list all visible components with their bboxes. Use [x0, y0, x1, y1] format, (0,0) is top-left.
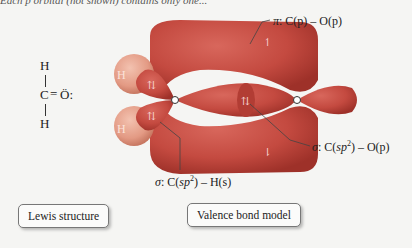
hydrogen-atoms: H H	[114, 54, 154, 146]
oxygen-nucleus	[294, 97, 301, 104]
lewis-structure-caption: Lewis structure	[18, 204, 109, 228]
svg-text:⇂: ⇂	[263, 146, 272, 158]
svg-text:↿: ↿	[263, 36, 272, 48]
svg-text:⇅: ⇅	[147, 79, 156, 91]
sigma-co-orbital: ⇅	[175, 83, 296, 117]
sigma-co-label: σ: C(sp2) – O(p)	[312, 139, 390, 155]
svg-text:H: H	[117, 122, 126, 136]
pi-bond-label: π: C(p) – O(p)	[273, 14, 342, 29]
sigma-ch-label: σ: C(sp2) – H(s)	[155, 174, 231, 190]
svg-text:⇅: ⇅	[241, 95, 250, 107]
valence-bond-caption: Valence bond model	[187, 203, 301, 227]
svg-text:H: H	[117, 68, 126, 82]
svg-text:⇅: ⇅	[147, 110, 156, 122]
carbon-nucleus	[172, 97, 179, 104]
